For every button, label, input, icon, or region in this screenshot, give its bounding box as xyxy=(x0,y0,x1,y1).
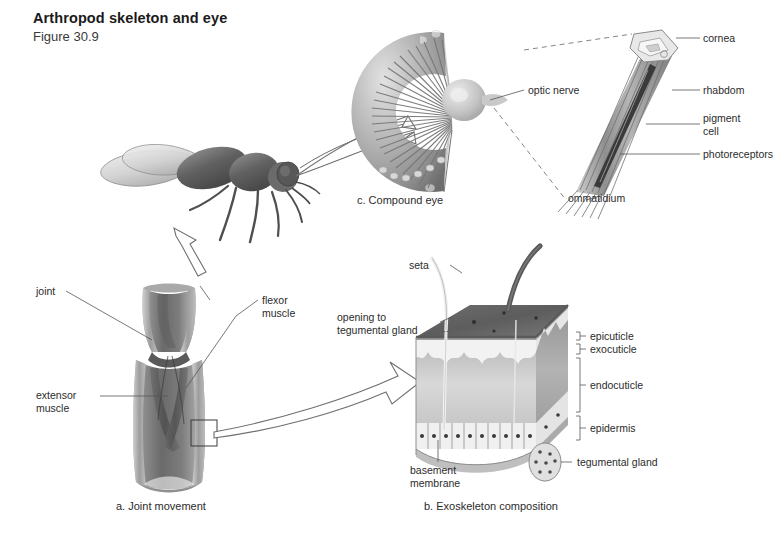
label-optic-nerve: optic nerve xyxy=(528,84,579,97)
label-pigment-cell: pigment cell xyxy=(703,112,740,137)
exoskeleton-block xyxy=(416,246,568,481)
caption-joint-movement: a. Joint movement xyxy=(116,500,206,512)
label-rhabdom: rhabdom xyxy=(703,84,744,97)
ommatidium-magnified xyxy=(494,30,678,219)
label-flexor-muscle: flexor muscle xyxy=(262,294,295,319)
label-extensor-muscle: extensor muscle xyxy=(36,389,76,414)
label-basement-membrane: basement membrane xyxy=(410,464,460,489)
joint-diagram xyxy=(133,284,217,493)
arrow-fly-to-joint xyxy=(174,228,206,276)
caption-compound-eye: c. Compound eye xyxy=(357,194,443,206)
caption-exoskeleton-composition: b. Exoskeleton composition xyxy=(424,500,558,512)
arrow-joint-to-exoskeleton xyxy=(214,362,420,438)
label-tegumental-gland: tegumental gland xyxy=(577,456,658,469)
label-epidermis: epidermis xyxy=(590,422,636,435)
label-opening-to-tegumental-gland: opening to tegumental gland xyxy=(337,311,418,336)
compound-eye xyxy=(347,30,508,192)
label-joint: joint xyxy=(36,285,55,298)
label-seta: seta xyxy=(409,259,429,272)
label-photoreceptors: photoreceptors xyxy=(703,148,773,161)
label-cornea: cornea xyxy=(703,32,735,45)
label-epicuticle: epicuticle xyxy=(590,330,634,343)
label-exocuticle: exocuticle xyxy=(590,343,637,356)
label-endocuticle: endocuticle xyxy=(590,379,643,392)
label-ommatidium: ommatidium xyxy=(568,192,625,205)
